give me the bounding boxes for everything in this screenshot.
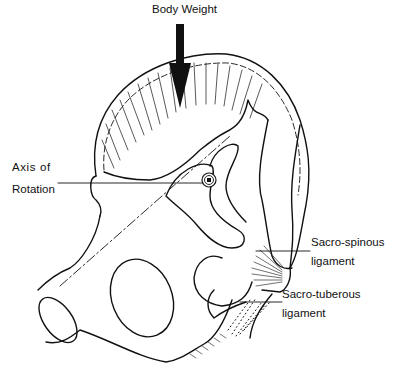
sacrospinous-label-line2: ligament: [311, 254, 354, 269]
down-arrow-icon: [169, 24, 191, 108]
sacrotuberous-label-line1: Sacro-tuberous: [282, 287, 361, 302]
body-weight-label: Body Weight: [152, 2, 217, 17]
obturator-foramen: [99, 250, 185, 347]
pelvis-drawing: [0, 0, 400, 372]
axis-label-line2: Rotation: [12, 182, 55, 197]
sacrotuberous-label-line2: ligament: [282, 306, 325, 321]
pubic-symphysis: [31, 291, 84, 350]
sciatic-foramen: [194, 256, 252, 306]
pelvis-diagram: Body Weight Axis of Rotation Sacro-spino…: [0, 0, 400, 372]
sacrospinous-label-line1: Sacro-spinous: [311, 235, 385, 250]
axis-of-rotation-icon: [202, 173, 216, 187]
axis-label-line1: Axis of: [12, 160, 51, 175]
